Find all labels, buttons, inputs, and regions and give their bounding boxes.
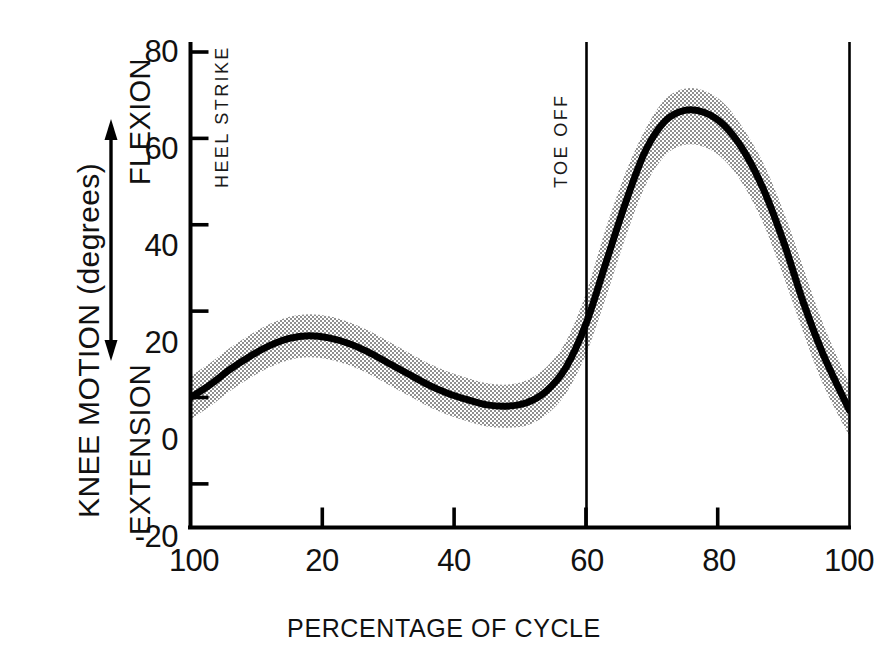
x-tick-label-20: 20	[305, 543, 338, 579]
toe-off-annotation: TOE OFF	[551, 94, 572, 188]
x-axis-ticks	[322, 508, 717, 528]
y-axis-ticks	[191, 52, 209, 484]
x-tick-label-80: 80	[702, 543, 735, 579]
extension-direction-label: EXTENSION	[124, 364, 157, 535]
y-tick-label-20: 20	[134, 325, 178, 361]
y-axis-title: KNEE MOTION (degrees)	[72, 163, 106, 518]
x-tick-label-end-100: 100	[824, 543, 874, 579]
x-tick-label-start-100: 100	[169, 543, 219, 579]
flexion-extension-arrow	[105, 119, 118, 361]
standard-deviation-band	[191, 88, 850, 436]
heel-strike-annotation: HEEL STRIKE	[212, 45, 233, 188]
x-tick-label-40: 40	[437, 543, 470, 579]
x-tick-label-60: 60	[570, 543, 603, 579]
flexion-direction-label: FLEXION	[124, 58, 157, 185]
x-axis-title: PERCENTAGE OF CYCLE	[0, 614, 888, 643]
y-tick-label-40: 40	[134, 228, 178, 264]
knee-motion-gait-chart: 80 60 40 20 0 -20 100 20 40 60 80 100 KN…	[0, 0, 888, 656]
